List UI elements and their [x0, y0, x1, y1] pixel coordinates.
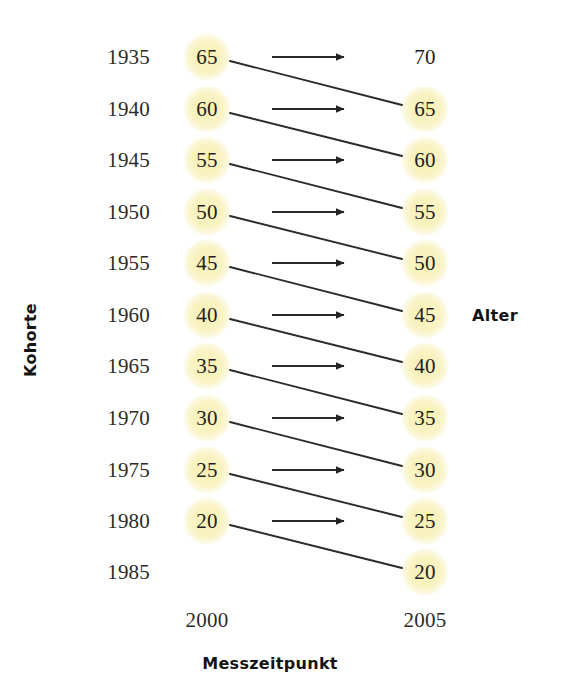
cohort-label-1985: 1985 [107, 560, 150, 585]
age-value-2000-1940: 60 [196, 97, 217, 122]
age-value-2005-1950: 55 [414, 200, 435, 225]
cohort-aging-line-1970-to-1975 [230, 422, 402, 466]
age-value-2005-1935: 70 [414, 45, 435, 70]
age-value-2005-1970: 35 [414, 406, 435, 431]
cohort-label-1960: 1960 [107, 303, 150, 328]
age-value-2000-1955: 45 [196, 251, 217, 276]
age-value-2000-1975: 25 [196, 458, 217, 483]
age-value-2005-1960: 45 [414, 303, 435, 328]
cohort-label-1940: 1940 [107, 97, 150, 122]
cohort-aging-line-1960-to-1965 [230, 319, 402, 362]
cohort-label-1975: 1975 [107, 458, 150, 483]
diagram-canvas: 1935194019451950195519601965197019751980… [0, 0, 565, 685]
age-value-2005-1945: 60 [414, 148, 435, 173]
age-value-2005-1975: 30 [414, 458, 435, 483]
diagram-svg [0, 0, 565, 685]
age-value-2000-1960: 40 [196, 303, 217, 328]
cohort-label-1970: 1970 [107, 406, 150, 431]
cohort-label-1945: 1945 [107, 148, 150, 173]
cohort-label-1950: 1950 [107, 200, 150, 225]
age-value-2000-1965: 35 [196, 354, 217, 379]
cohort-label-1965: 1965 [107, 354, 150, 379]
cohort-aging-line-1980-to-1985 [230, 525, 402, 568]
cohort-label-1935: 1935 [107, 45, 150, 70]
cohort-aging-line-1975-to-1980 [230, 474, 402, 517]
cohort-aging-line-1955-to-1960 [230, 267, 402, 311]
cohort-aging-line-1935-to-1940 [230, 61, 402, 105]
axis-title-alter: Alter [472, 306, 518, 325]
time-axis-label-2005: 2005 [404, 608, 447, 633]
age-value-2005-1955: 50 [414, 251, 435, 276]
age-value-2005-1980: 25 [414, 509, 435, 534]
age-value-2005-1985: 20 [414, 560, 435, 585]
axis-title-messzeitpunkt: Messzeitpunkt [202, 654, 338, 673]
cohort-aging-line-1950-to-1955 [230, 216, 402, 259]
axis-title-kohorte: Kohorte [21, 303, 40, 377]
time-axis-label-2000: 2000 [186, 608, 229, 633]
age-value-2005-1965: 40 [414, 354, 435, 379]
cohort-label-1980: 1980 [107, 509, 150, 534]
age-value-2000-1970: 30 [196, 406, 217, 431]
cohort-aging-line-1940-to-1945 [230, 113, 402, 156]
cohort-aging-line-1945-to-1950 [230, 164, 402, 208]
age-value-2000-1950: 50 [196, 200, 217, 225]
age-value-2000-1980: 20 [196, 509, 217, 534]
cohort-aging-line-1965-to-1970 [230, 370, 402, 414]
age-value-2005-1940: 65 [414, 97, 435, 122]
age-value-2000-1945: 55 [196, 148, 217, 173]
cohort-label-1955: 1955 [107, 251, 150, 276]
age-value-2000-1935: 65 [196, 45, 217, 70]
